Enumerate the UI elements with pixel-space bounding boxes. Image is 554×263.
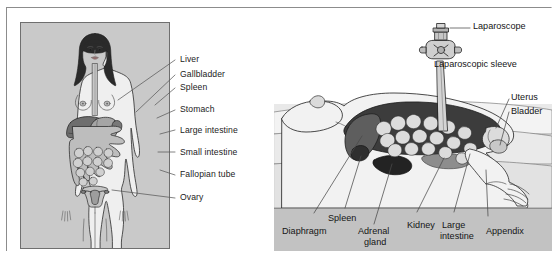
label-adrenal-gland-line1: Adrenal xyxy=(358,227,389,237)
panel-laparoscopy-supine: Laparoscope Laparoscopic sleeve Uterus B… xyxy=(274,8,552,251)
panel-b-footer-divider xyxy=(274,208,552,209)
label-ovary: Ovary xyxy=(180,193,203,202)
label-stomach: Stomach xyxy=(180,105,215,114)
supine-body-illustration xyxy=(274,8,552,251)
label-laparoscope: Laparoscope xyxy=(473,22,526,32)
female-body-illustration xyxy=(21,23,169,248)
label-spleen: Spleen xyxy=(180,83,207,92)
label-bladder: Bladder xyxy=(511,107,542,117)
medical-figure: Liver Gallbladder Spleen Stomach Large i… xyxy=(0,0,554,263)
label-large-intestine-l1: Large xyxy=(442,221,465,231)
label-fallopian-tube: Fallopian tube xyxy=(180,170,235,179)
label-gallbladder: Gallbladder xyxy=(180,70,225,79)
label-liver: Liver xyxy=(180,55,199,64)
figure-left-rule xyxy=(6,7,7,251)
panel-anterior-female-figure xyxy=(20,22,170,249)
label-uterus: Uterus xyxy=(511,93,538,103)
label-diaphragm: Diaphragm xyxy=(282,227,326,237)
label-laparoscopic-sleeve: Laparoscopic sleeve xyxy=(434,60,517,70)
label-appendix: Appendix xyxy=(486,227,524,237)
label-small-intestine: Small intestine xyxy=(180,148,237,157)
label-large-intestine: Large intestine xyxy=(180,126,238,135)
label-kidney: Kidney xyxy=(407,221,435,231)
label-spleen: Spleen xyxy=(328,214,356,224)
label-adrenal-gland-line2: gland xyxy=(364,238,386,248)
label-large-intestine-l2: intestine xyxy=(440,232,474,242)
